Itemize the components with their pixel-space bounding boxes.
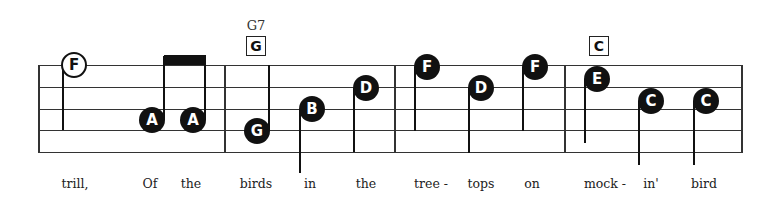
lyric-syllable: the (181, 176, 201, 191)
barline (224, 65, 226, 153)
note-beam (164, 55, 206, 65)
note-head-f: F (61, 52, 87, 78)
staff-line (38, 65, 741, 66)
note-stem (299, 109, 301, 173)
note-stem (268, 65, 270, 131)
note-stem (163, 56, 165, 120)
lyric-syllable: the (356, 176, 376, 191)
lyric-syllable: tops (468, 176, 495, 191)
note-stem (584, 79, 586, 143)
lyric-syllable: birds (240, 176, 272, 191)
staff-line (38, 87, 741, 88)
note-head-d: D (353, 75, 379, 101)
lyric-syllable: in' (643, 176, 659, 191)
barline (394, 65, 396, 153)
note-head-a: A (139, 107, 165, 133)
lyric-syllable: trill, (62, 176, 89, 191)
lyric-syllable: on (524, 176, 540, 191)
chord-box: G (246, 36, 266, 56)
lyric-syllable: bird (691, 176, 717, 191)
note-head-c: C (638, 88, 664, 114)
lyric-syllable: Of (143, 176, 158, 191)
note-stem (468, 88, 470, 153)
barline (564, 65, 566, 153)
note-head-a: A (180, 107, 206, 133)
note-stem (638, 101, 640, 165)
note-stem (693, 101, 695, 165)
chord-name: G7 (247, 18, 266, 33)
sheet-music: FAAGBDFDFECCG7GCtrill,Ofthebirdsinthetre… (0, 0, 777, 200)
note-head-g: G (244, 118, 270, 144)
note-head-d: D (468, 75, 494, 101)
lyric-syllable: tree - (414, 176, 448, 191)
note-stem (62, 65, 64, 130)
note-head-e: E (584, 66, 610, 92)
note-stem (353, 88, 355, 152)
note-stem (414, 67, 416, 131)
note-head-f: F (522, 54, 548, 80)
barline (38, 65, 40, 153)
chord-box: C (589, 36, 609, 56)
note-stem (522, 67, 524, 131)
staff-line (38, 152, 741, 153)
note-stem (204, 56, 206, 120)
lyric-syllable: mock - (584, 176, 626, 191)
note-head-b: B (299, 96, 325, 122)
lyric-syllable: in (304, 176, 316, 191)
barline (741, 65, 743, 153)
note-head-c: C (693, 88, 719, 114)
note-head-f: F (414, 54, 440, 80)
